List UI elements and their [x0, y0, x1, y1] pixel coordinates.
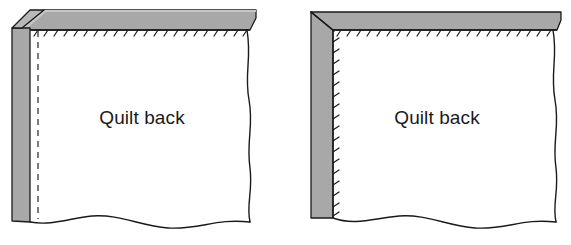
binding-strip-left-left [12, 28, 30, 222]
binding-strip-left-right [311, 12, 333, 218]
binding-strip-top-left [22, 10, 256, 30]
panel-left-binding-folded-corner: Quilt back [0, 0, 285, 245]
quilt-binding-figure: Quilt back [0, 0, 571, 245]
panel-left-drawing: Quilt back [0, 0, 285, 245]
binding-strip-top-right [311, 12, 561, 30]
panel-right-drawing: Quilt back [285, 0, 571, 245]
quilt-back-body-left [30, 30, 251, 228]
quilt-back-label-right: Quilt back [394, 107, 480, 128]
quilt-back-body-right [333, 30, 557, 228]
panel-right-binding-mitered-corner: Quilt back [285, 0, 571, 245]
quilt-back-label-left: Quilt back [99, 107, 185, 128]
